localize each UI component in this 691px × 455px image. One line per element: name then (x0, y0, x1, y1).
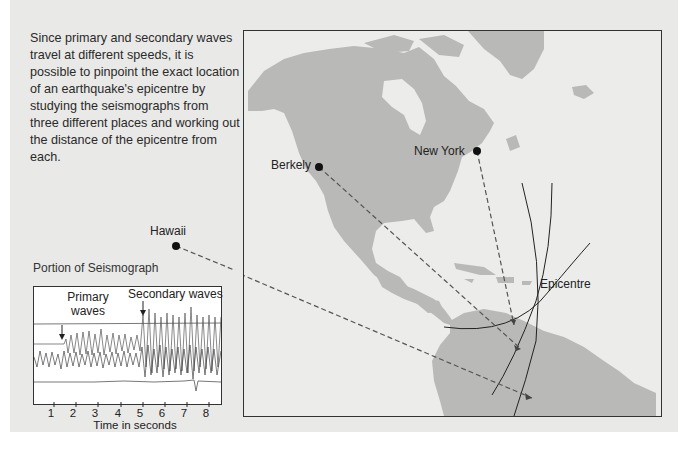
seismograph-chart: Primary waves Secondary waves (33, 286, 222, 405)
hawaii-path-segment (172, 240, 252, 270)
x-tick: 7 (181, 407, 187, 419)
map: Berkely New York Epicentre (243, 30, 662, 417)
x-tick: 1 (48, 407, 54, 419)
hawaii-marker (172, 242, 180, 250)
secondary-waves-label: Secondary waves (128, 287, 224, 301)
primary-waves-label: Primary waves (58, 290, 118, 318)
x-tick: 6 (159, 407, 165, 419)
station-label-berkely: Berkely (271, 158, 311, 172)
map-land (244, 31, 661, 416)
x-tick: 2 (70, 407, 76, 419)
x-tick: 8 (203, 407, 209, 419)
primary-label-line1: Primary (58, 290, 118, 304)
primary-label-line2: waves (58, 304, 118, 318)
x-tick: 5 (137, 407, 143, 419)
epicentre-label: Epicentre (540, 277, 591, 291)
x-axis-label: Time in seconds (0, 419, 260, 431)
seismograph-title: Portion of Seismograph (33, 261, 158, 275)
x-tick: 3 (92, 407, 98, 419)
station-label-new-york: New York (414, 144, 465, 158)
x-axis: 1 2 3 4 5 6 7 8 (33, 404, 222, 418)
intro-text: Since primary and secondary waves travel… (30, 30, 240, 166)
station-label-hawaii: Hawaii (150, 224, 186, 238)
new-york-marker (473, 147, 481, 155)
x-tick: 4 (115, 407, 121, 419)
x-axis-ticks (33, 402, 222, 407)
berkely-marker (315, 163, 323, 171)
